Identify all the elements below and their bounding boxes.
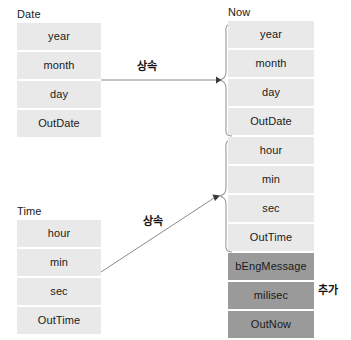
field-date-outdate[interactable]: OutDate bbox=[17, 110, 101, 137]
class-title-time: Time bbox=[17, 205, 101, 218]
inheritance-arrowhead-time bbox=[213, 195, 221, 202]
class-block-now: Now year month day OutDate hour min sec … bbox=[228, 6, 314, 340]
inheritance-line-time bbox=[101, 198, 214, 272]
field-now-outnow[interactable]: OutNow bbox=[228, 311, 314, 338]
field-time-outtime[interactable]: OutTime bbox=[17, 307, 101, 334]
field-now-sec[interactable]: sec bbox=[228, 195, 314, 222]
annotation-added: 추가 bbox=[318, 281, 338, 297]
field-now-year[interactable]: year bbox=[228, 21, 314, 48]
field-now-bengmessage[interactable]: bEngMessage bbox=[228, 253, 314, 280]
field-now-outdate[interactable]: OutDate bbox=[228, 108, 314, 135]
edge-label-inheritance-date: 상속 bbox=[137, 57, 157, 73]
field-now-outtime[interactable]: OutTime bbox=[228, 224, 314, 251]
field-list-date: year month day OutDate bbox=[17, 23, 101, 137]
class-block-date: Date year month day OutDate bbox=[17, 8, 101, 139]
field-time-min[interactable]: min bbox=[17, 249, 101, 276]
field-now-day[interactable]: day bbox=[228, 79, 314, 106]
field-now-month[interactable]: month bbox=[228, 50, 314, 77]
field-list-time: hour min sec OutTime bbox=[17, 220, 101, 334]
inheritance-arrowhead-date bbox=[216, 77, 222, 84]
class-block-time: Time hour min sec OutTime bbox=[17, 205, 101, 336]
field-now-min[interactable]: min bbox=[228, 166, 314, 193]
field-date-year[interactable]: year bbox=[17, 23, 101, 50]
class-title-now: Now bbox=[228, 6, 314, 19]
field-list-now: year month day OutDate hour min sec OutT… bbox=[228, 21, 314, 338]
edge-label-inheritance-time: 상속 bbox=[143, 212, 163, 228]
field-time-hour[interactable]: hour bbox=[17, 220, 101, 247]
field-date-month[interactable]: month bbox=[17, 52, 101, 79]
field-now-hour[interactable]: hour bbox=[228, 137, 314, 164]
diagram-canvas: Date year month day OutDate Time hour mi… bbox=[0, 0, 351, 340]
class-title-date: Date bbox=[17, 8, 101, 21]
field-date-day[interactable]: day bbox=[17, 81, 101, 108]
field-now-milisec[interactable]: milisec bbox=[228, 282, 314, 309]
field-time-sec[interactable]: sec bbox=[17, 278, 101, 305]
